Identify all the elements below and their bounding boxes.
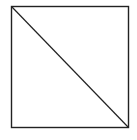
diagram-canvas xyxy=(0,0,137,140)
diagonal-line xyxy=(12,7,129,128)
